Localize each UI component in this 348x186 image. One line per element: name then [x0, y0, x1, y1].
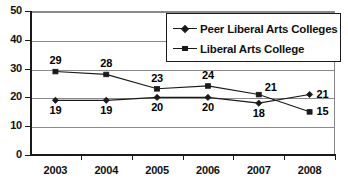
data-point-diamond[interactable]: [52, 97, 58, 103]
line-chart: 50403020100 200320042005200620072008 191…: [0, 0, 348, 186]
data-point-label: 15: [317, 106, 329, 117]
data-point-label: 23: [142, 73, 172, 84]
data-point-label: 28: [91, 58, 121, 69]
data-point-label: 18: [244, 108, 274, 119]
data-point-label: 21: [265, 82, 277, 93]
data-point-square[interactable]: [307, 110, 312, 115]
data-point-label: 24: [193, 70, 223, 81]
data-point-diamond[interactable]: [103, 97, 109, 103]
data-point-square[interactable]: [155, 87, 160, 92]
data-point-label: 20: [193, 102, 223, 113]
data-point-square[interactable]: [205, 84, 210, 89]
data-point-label: 20: [142, 102, 172, 113]
square-marker-icon: [173, 43, 197, 55]
data-point-label: 19: [91, 105, 121, 116]
legend-item-label: Liberal Arts College: [200, 43, 304, 55]
data-point-square[interactable]: [256, 92, 261, 97]
data-point-label: 19: [40, 105, 70, 116]
chart-legend: Peer Liberal Arts Colleges Liberal Arts …: [166, 13, 341, 62]
diamond-marker-icon: [173, 23, 197, 35]
legend-item-peer-liberal-arts-colleges[interactable]: Peer Liberal Arts Colleges: [173, 19, 340, 39]
data-point-diamond[interactable]: [256, 100, 262, 106]
data-point-diamond[interactable]: [154, 94, 160, 100]
legend-item-label: Peer Liberal Arts Colleges: [200, 23, 338, 35]
data-point-label: 29: [40, 55, 70, 66]
data-point-diamond[interactable]: [306, 91, 312, 97]
data-point-square[interactable]: [53, 69, 58, 74]
data-point-diamond[interactable]: [205, 94, 211, 100]
legend-item-liberal-arts-college[interactable]: Liberal Arts College: [173, 39, 340, 59]
data-point-square[interactable]: [104, 72, 109, 77]
data-point-label: 21: [317, 89, 329, 100]
